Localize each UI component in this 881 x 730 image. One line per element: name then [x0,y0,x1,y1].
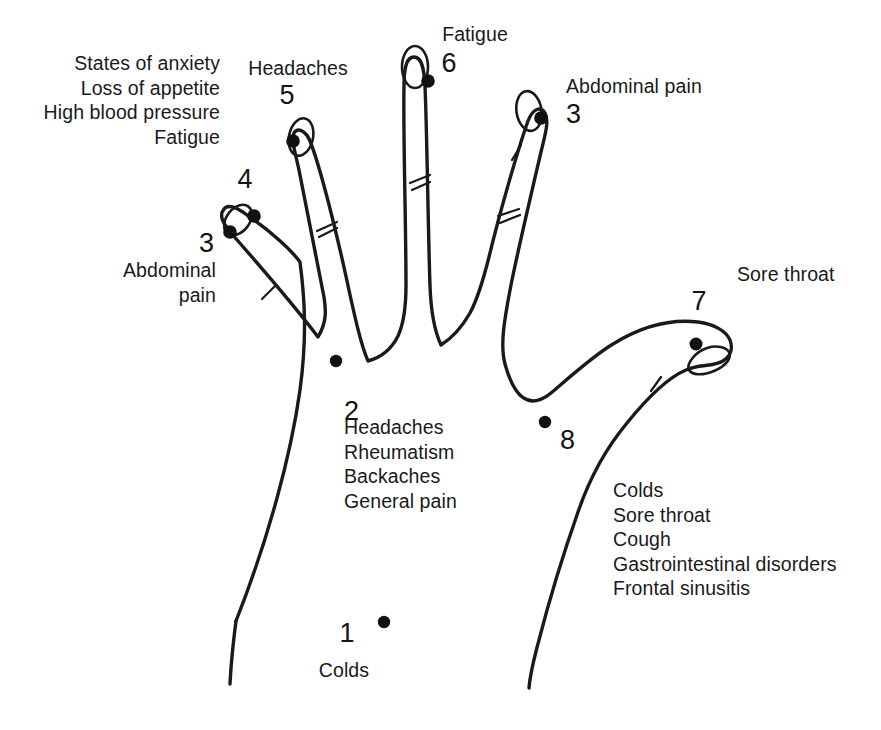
point-dot-4-little-finger [247,209,261,223]
crease-index-finger-b [500,215,520,223]
wrist-left-edge [230,621,236,684]
point-3-little-ailment-list: Abdominal pain [80,258,216,307]
point-5-ailment-list: Headaches [243,56,353,81]
point-1-ailment-list: Colds [296,658,392,683]
point-2-ailment-list: Headaches Rheumatism Backaches General p… [344,415,574,513]
point-8-ailment-list: Colds Sore throat Cough Gastrointestinal… [613,478,873,601]
point-7-number: 7 [683,288,715,315]
point-8-ailment-text: Colds Sore throat Cough Gastrointestinal… [613,478,873,601]
point-3-little-number: 3 [199,230,231,257]
point-dot-5-ring-finger [286,134,300,148]
point-4-ailment-list: States of anxiety Loss of appetite High … [28,51,220,149]
point-6-ailment-list: Fatigue [431,22,519,47]
nail-index-finger [514,89,545,132]
hand-diagram: States of anxiety Loss of appetite High … [0,0,881,730]
point-3-index-ailment-list: Abdominal pain [566,74,726,99]
point-8-number: 8 [560,427,592,454]
crease-little-finger [262,285,276,299]
point-dot-3-index-finger [534,111,548,125]
point-dot-1 [378,616,390,628]
point-2-ailment-text: Headaches Rheumatism Backaches General p… [344,415,574,513]
point-dot-7-thumb [690,338,703,351]
point-3-little-ailment-text: Abdominal pain [80,258,216,307]
point-7-ailment-list: Sore throat [737,262,877,287]
point-3-index-number: 3 [566,101,598,128]
point-dot-2 [330,355,342,367]
point-5-number: 5 [271,82,303,109]
point-4-ailment-text: States of anxiety Loss of appetite High … [28,51,220,149]
point-4-number: 4 [229,166,261,193]
point-1-number: 1 [331,620,363,647]
point-6-number: 6 [433,50,465,77]
